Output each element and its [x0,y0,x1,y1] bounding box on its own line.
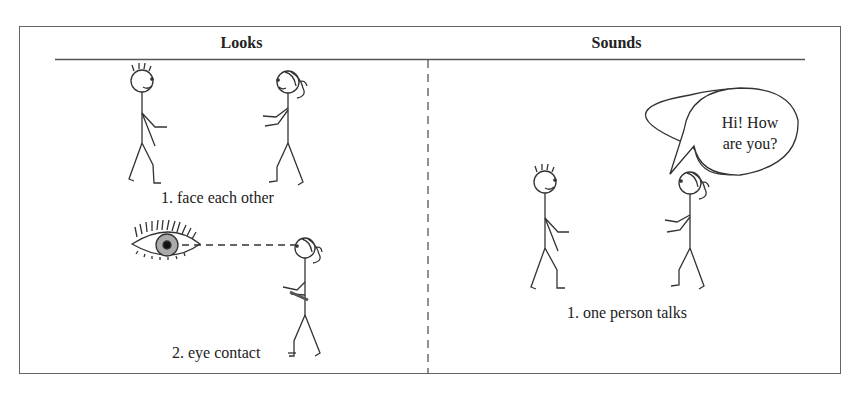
speech-bubble-text: Hi! How are you? [700,112,800,154]
girl-figure-icon [283,238,322,356]
girl-figure-icon [263,71,307,185]
caption-one-person-talks: 1. one person talks [567,304,687,322]
caption-eye-contact: 2. eye contact [172,344,260,362]
diagram-drawing [0,0,865,395]
eye-icon [132,220,200,260]
boy-figure-icon [129,63,167,183]
girl-figure-icon [665,172,709,289]
speech-line-1: Hi! How [700,112,800,133]
boy-figure-icon [531,164,569,289]
caption-face-each-other: 1. face each other [161,189,274,207]
speech-line-2: are you? [700,133,800,154]
